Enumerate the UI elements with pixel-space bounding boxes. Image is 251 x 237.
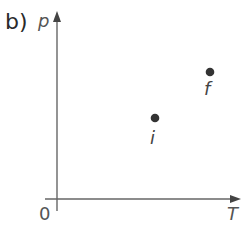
part-label: b) [5, 11, 28, 33]
point-i [151, 114, 160, 123]
point-f-label: f [204, 80, 210, 98]
point-i-label: i [150, 129, 155, 147]
y-axis-label: p [38, 12, 49, 30]
x-axis-label: T [227, 205, 238, 223]
p-T-diagram [0, 0, 251, 237]
y-axis-arrow-icon [53, 11, 61, 22]
x-axis-arrow-icon [230, 195, 241, 203]
point-f [206, 68, 215, 77]
origin-label: 0 [39, 205, 50, 223]
